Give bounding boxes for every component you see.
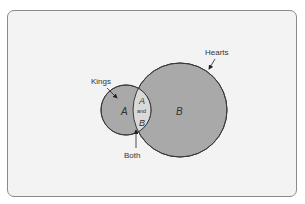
- venn-diagram: A B A and B Kings Hearts Both: [0, 0, 305, 204]
- intersection-text-b: B: [139, 118, 145, 128]
- label-kings: Kings: [91, 77, 111, 86]
- region-a-letter: A: [120, 106, 128, 117]
- intersection-text-and: and: [137, 108, 146, 114]
- label-both: Both: [124, 151, 140, 160]
- intersection-text-a: A: [138, 96, 145, 106]
- label-hearts: Hearts: [205, 48, 229, 57]
- region-b-letter: B: [176, 106, 183, 117]
- arrow-hearts: [209, 59, 215, 69]
